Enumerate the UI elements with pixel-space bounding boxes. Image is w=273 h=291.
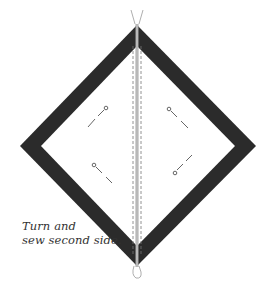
thread-tail-top-icon [131, 10, 143, 24]
thread-loop-bottom-icon [133, 266, 141, 278]
caption-line-2: sew second side. [22, 233, 122, 247]
caption-line-1: Turn and [22, 219, 122, 233]
instruction-caption: Turn and sew second side. [22, 219, 122, 247]
sewing-diagram: Turn and sew second side. [0, 0, 273, 291]
diamond-block-illustration [0, 0, 273, 291]
